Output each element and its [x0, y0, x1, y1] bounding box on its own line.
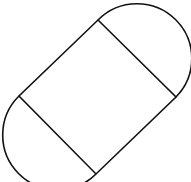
- background: [0, 0, 191, 182]
- geometry-figure: [0, 0, 191, 182]
